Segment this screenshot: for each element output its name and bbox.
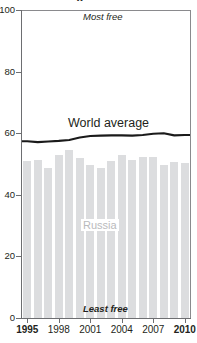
y-tick-label-40: 40 [0,190,15,200]
y-tick-40 [16,195,22,196]
line-series-world-average [22,10,190,318]
x-tick-2007 [153,319,154,323]
x-tick-label-2004: 2004 [107,324,137,336]
x-tick-1998 [59,319,60,323]
x-tick-label-2007: 2007 [138,324,168,336]
annotation-most-free: Most free [83,11,123,22]
plot-right-border [190,10,191,319]
y-tick-60 [16,133,22,134]
y-tick-label-100: 100 [0,5,15,15]
x-axis-line [21,318,191,319]
y-tick-100 [16,10,22,11]
y-tick-label-60: 60 [0,128,15,138]
chart-figure: y 020406080100 199519982001200420072010 … [0,0,197,343]
series-label-world-average: World average [66,116,151,130]
series-label-russia: Russia [81,219,119,231]
y-tick-20 [16,256,22,257]
y-tick-0 [16,318,22,319]
x-tick-2001 [90,319,91,323]
y-tick-label-80: 80 [0,67,15,77]
x-tick-label-2010: 2010 [170,324,197,336]
x-tick-label-1998: 1998 [44,324,74,336]
y-tick-label-0: 0 [0,313,15,323]
x-tick-1995 [27,319,28,323]
x-tick-label-2001: 2001 [75,324,105,336]
y-tick-80 [16,72,22,73]
x-tick-2010 [185,319,186,323]
x-tick-label-1995: 1995 [12,324,42,336]
x-tick-2004 [122,319,123,323]
annotation-least-free: Least free [83,303,128,314]
y-tick-label-20: 20 [0,251,15,261]
cropped-title-fragment: y [76,0,83,1]
